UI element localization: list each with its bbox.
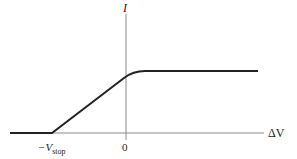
- y-axis-label: I: [122, 1, 128, 15]
- tick-label-minus-vstop-sub: stop: [52, 147, 65, 156]
- tick-label-zero: 0: [122, 141, 128, 153]
- tick-label-minus-vstop-main: −V: [38, 141, 53, 153]
- x-axis-label: ΔV: [268, 126, 285, 140]
- iv-curve: [10, 71, 258, 133]
- iv-diagram: I ΔV −Vstop 0: [0, 0, 297, 159]
- tick-label-minus-vstop: −Vstop: [38, 141, 66, 156]
